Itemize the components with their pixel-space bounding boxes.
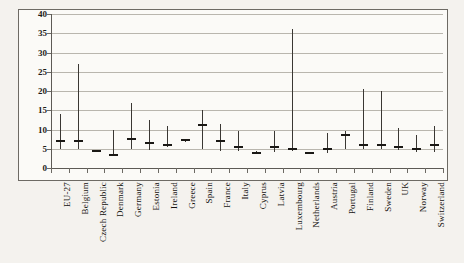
x-axis-tick bbox=[390, 168, 391, 173]
y-axis-tick bbox=[47, 33, 51, 34]
value-marker bbox=[181, 139, 190, 141]
x-axis-tick-label: Switzerland bbox=[436, 182, 446, 227]
x-axis-tick-label: France bbox=[222, 182, 232, 208]
x-axis-tick-label: EU-27 bbox=[62, 182, 72, 207]
value-marker bbox=[359, 144, 368, 146]
y-axis-tick bbox=[47, 72, 51, 73]
range-line bbox=[113, 130, 114, 156]
x-axis-tick-label: Czech Republic bbox=[98, 182, 108, 242]
range-line bbox=[149, 120, 150, 150]
value-marker bbox=[305, 152, 314, 154]
x-axis-tick-label: Germany bbox=[133, 182, 143, 217]
x-axis-tick-label: Norway bbox=[418, 182, 428, 212]
y-axis-tick bbox=[47, 130, 51, 131]
value-marker bbox=[145, 142, 154, 144]
value-marker bbox=[341, 134, 350, 136]
x-axis-tick bbox=[283, 168, 284, 173]
x-axis-tick-label: Sweden bbox=[383, 182, 393, 212]
x-axis-tick-label: Belgium bbox=[80, 182, 90, 214]
x-axis-tick bbox=[140, 168, 141, 173]
x-axis-tick bbox=[407, 168, 408, 173]
value-marker bbox=[216, 140, 225, 142]
value-marker bbox=[163, 144, 172, 146]
x-axis-tick bbox=[318, 168, 319, 173]
range-line bbox=[381, 91, 382, 149]
range-line bbox=[274, 131, 275, 151]
x-axis-labels: EU-27BelgiumCzech RepublicDenmarkGermany… bbox=[18, 182, 448, 263]
y-axis-tick bbox=[47, 110, 51, 111]
value-marker bbox=[252, 152, 261, 154]
x-axis-tick-label: Italy bbox=[240, 182, 250, 200]
x-axis-tick bbox=[265, 168, 266, 173]
y-axis-tick bbox=[47, 53, 51, 54]
x-axis-tick bbox=[158, 168, 159, 173]
x-axis-tick-label: Luxembourg bbox=[294, 182, 304, 230]
x-axis-tick bbox=[372, 168, 373, 173]
x-axis-tick bbox=[176, 168, 177, 173]
range-line bbox=[363, 89, 364, 149]
value-marker bbox=[109, 154, 118, 156]
x-axis-tick bbox=[194, 168, 195, 173]
value-marker bbox=[430, 144, 439, 146]
range-line bbox=[434, 126, 435, 152]
value-marker bbox=[412, 148, 421, 150]
value-marker bbox=[377, 144, 386, 146]
x-axis-tick bbox=[211, 168, 212, 173]
x-axis-tick-label: Netherlands bbox=[311, 182, 321, 228]
range-line bbox=[60, 114, 61, 149]
x-axis-tick-label: Portugal bbox=[347, 182, 357, 214]
x-axis-tick-label: Greece bbox=[187, 182, 197, 209]
x-axis-tick bbox=[87, 168, 88, 173]
y-axis-tick bbox=[47, 149, 51, 150]
range-line bbox=[78, 64, 79, 149]
value-marker bbox=[394, 146, 403, 148]
range-line bbox=[202, 110, 203, 149]
x-axis-tick bbox=[69, 168, 70, 173]
x-axis-tick-label: Austria bbox=[329, 182, 339, 210]
x-axis-tick bbox=[122, 168, 123, 173]
range-line bbox=[131, 103, 132, 149]
value-marker bbox=[56, 140, 65, 142]
value-marker bbox=[270, 146, 279, 148]
x-axis-tick bbox=[229, 168, 230, 173]
x-axis-tick bbox=[104, 168, 105, 173]
value-marker bbox=[127, 138, 136, 140]
x-axis-tick-label: Estonia bbox=[151, 182, 161, 210]
plot-area bbox=[19, 10, 449, 182]
y-axis-tick bbox=[47, 91, 51, 92]
range-line bbox=[220, 124, 221, 151]
x-axis-tick bbox=[51, 168, 52, 173]
x-axis-tick-label: UK bbox=[400, 182, 410, 195]
x-axis-tick bbox=[247, 168, 248, 173]
x-axis-tick-label: Latvia bbox=[276, 182, 286, 206]
x-axis-tick-label: Finland bbox=[365, 182, 375, 211]
value-marker bbox=[323, 148, 332, 150]
value-marker bbox=[288, 148, 297, 150]
range-line bbox=[292, 29, 293, 150]
x-axis-tick bbox=[300, 168, 301, 173]
value-marker bbox=[198, 124, 207, 126]
caption-fragment bbox=[18, 0, 448, 6]
x-axis-tick-label: Cyprus bbox=[258, 182, 268, 209]
x-axis-tick-label: Spain bbox=[204, 182, 214, 204]
chart-frame: 0510152025303540 bbox=[18, 9, 448, 181]
x-axis-tick bbox=[443, 168, 444, 173]
y-axis-tick bbox=[47, 14, 51, 15]
value-marker bbox=[74, 140, 83, 142]
x-axis-tick-label: Denmark bbox=[115, 182, 125, 217]
x-axis-tick-label: Ireland bbox=[169, 182, 179, 209]
figure-container: 0510152025303540 EU-27BelgiumCzech Repub… bbox=[0, 0, 464, 263]
value-marker bbox=[234, 146, 243, 148]
x-axis-tick bbox=[425, 168, 426, 173]
x-axis-tick bbox=[354, 168, 355, 173]
x-axis-tick bbox=[336, 168, 337, 173]
value-marker bbox=[92, 150, 101, 152]
